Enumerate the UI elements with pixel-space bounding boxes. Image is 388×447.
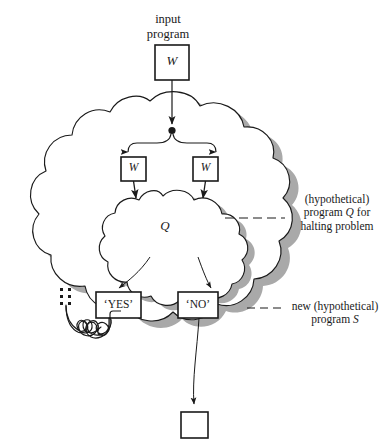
edge-no-to-output — [194, 318, 199, 404]
annotation-program-s: new (hypothetical) program S — [282, 300, 388, 327]
diagram-canvas: input program W W W Q ‘YES’ ‘NO’ (hypoth… — [0, 0, 388, 447]
output-box — [181, 412, 208, 438]
annotation-program-q: (hypothetical) program Q for halting pro… — [286, 193, 388, 233]
input-program-line2: program — [128, 27, 208, 42]
branch-right-box-label: W — [193, 161, 218, 174]
annotation-q-line2-pre: program — [304, 206, 346, 218]
annotation-s-symbol: S — [353, 313, 359, 325]
annotation-q-symbol: Q — [346, 206, 354, 218]
input-box-label: W — [155, 53, 189, 68]
yes-box-label: ‘YES’ — [96, 298, 141, 311]
no-box-label: ‘NO’ — [178, 298, 218, 311]
input-program-label: input program — [128, 12, 208, 41]
ellipsis-dots — [60, 288, 71, 305]
annotation-s-line2-pre: program — [311, 313, 353, 325]
annotation-s-line1: new (hypothetical) — [282, 300, 388, 313]
branch-junction-dot — [168, 127, 175, 134]
annotation-q-line2: program Q for — [286, 206, 388, 219]
branch-left-box-label: W — [121, 161, 146, 174]
inner-cloud-label: Q — [150, 218, 180, 233]
annotation-q-line3: halting problem — [286, 220, 388, 233]
input-program-line1: input — [128, 12, 208, 27]
annotation-q-line1: (hypothetical) — [286, 193, 388, 206]
annotation-s-line2: program S — [282, 313, 388, 326]
annotation-q-line2-post: for — [354, 206, 370, 218]
